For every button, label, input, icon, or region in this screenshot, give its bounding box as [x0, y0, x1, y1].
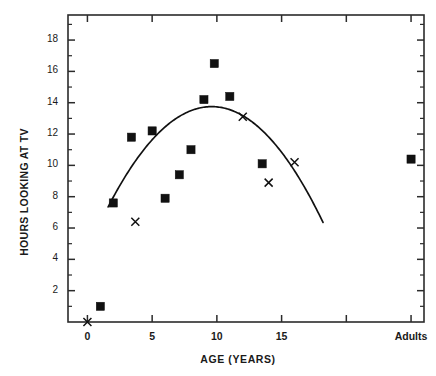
y-tick-label: 10: [34, 158, 58, 169]
data-point-square: [258, 160, 266, 168]
y-tick-label: 4: [34, 252, 58, 263]
series-squares: [96, 59, 415, 310]
data-point-square: [96, 302, 104, 310]
data-point-square: [210, 59, 218, 67]
y-tick-label: 16: [34, 64, 58, 75]
x-tick-label: 5: [122, 330, 182, 342]
y-tick-label: 6: [34, 221, 58, 232]
figure-container: HOURS LOOKING AT TV AGE (YEARS) 24681012…: [0, 0, 436, 376]
data-point-square: [148, 127, 156, 135]
y-tick-label: 2: [34, 284, 58, 295]
plot-frame: [68, 15, 424, 322]
y-tick-label: 18: [34, 33, 58, 44]
x-tick-label: 15: [252, 330, 312, 342]
data-point-cross: [265, 179, 273, 187]
x-tick-label: 0: [57, 330, 117, 342]
data-point-cross: [131, 218, 139, 226]
x-tick-label: 10: [187, 330, 247, 342]
scatter-plot: [0, 0, 436, 376]
data-point-square: [127, 133, 135, 141]
data-point-square: [226, 92, 234, 100]
y-tick-label: 14: [34, 96, 58, 107]
data-point-square: [161, 194, 169, 202]
y-axis-label: HOURS LOOKING AT TV: [18, 92, 30, 292]
data-point-square: [407, 155, 415, 163]
fit-curve: [108, 107, 323, 223]
data-point-square: [109, 199, 117, 207]
data-point-cross: [291, 158, 299, 166]
y-tick-label: 8: [34, 190, 58, 201]
series-crosses: [83, 113, 298, 326]
x-axis-label: AGE (YEARS): [68, 353, 408, 365]
x-tick-label: Adults: [381, 330, 436, 342]
data-point-square: [200, 95, 208, 103]
data-point-square: [175, 171, 183, 179]
y-tick-label: 12: [34, 127, 58, 138]
data-point-square: [187, 146, 195, 154]
